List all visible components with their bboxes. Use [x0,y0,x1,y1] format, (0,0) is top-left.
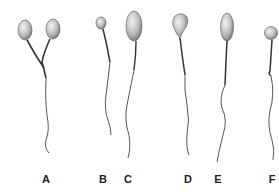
tail-icon [105,62,111,135]
midpiece-icon [103,29,110,62]
tail-icon [269,76,274,160]
label-f: F [269,173,276,185]
midpiece-icon [27,40,44,68]
tail-icon [185,75,189,155]
tail-icon [45,78,49,153]
midpiece-icon [134,41,136,70]
specimen-b [96,17,111,135]
head-icon [126,11,142,41]
specimen-a [18,19,60,153]
label-a: A [42,173,50,185]
label-b: B [99,173,107,185]
head-icon [46,19,60,39]
head-icon [18,20,32,40]
specimen-d [173,14,189,155]
label-d: D [184,173,192,185]
head-icon [173,14,188,38]
tail-icon [126,70,134,158]
specimen-e [217,13,234,162]
head-icon [265,27,278,40]
head-icon [221,13,234,41]
midpiece-icon [42,39,50,78]
midpiece-icon [269,40,272,76]
midpiece-icon [180,38,185,75]
label-e: E [214,173,221,185]
specimen-c [126,11,142,158]
tail-icon [217,85,225,162]
label-c: C [124,173,132,185]
midpiece-icon [225,41,227,85]
head-icon [96,17,106,29]
specimen-f [265,27,278,161]
sperm-morphology-diagram [0,0,279,196]
